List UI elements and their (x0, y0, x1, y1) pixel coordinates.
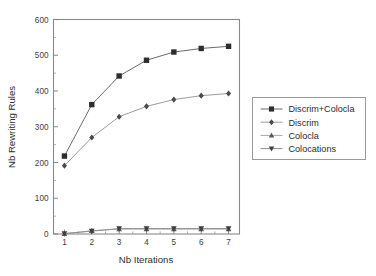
y-tick-label: 200 (35, 159, 49, 168)
legend-entry-label: Colocla (289, 131, 320, 141)
figure-container: 0100200300400500600 1234567 Nb Rewriting… (0, 0, 376, 276)
x-tick-label: 7 (226, 238, 231, 247)
legend-marker-square-icon (269, 106, 274, 111)
series-lines-group (64, 46, 228, 233)
legend-entry-label: Discrim+Colocla (289, 104, 356, 114)
x-tick-label: 5 (172, 238, 177, 247)
chart-svg: 0100200300400500600 1234567 Nb Rewriting… (0, 0, 376, 276)
y-tick-label: 500 (35, 51, 49, 60)
data-point-marker (117, 114, 122, 120)
data-point-marker (89, 102, 94, 107)
y-tick-label: 400 (35, 87, 49, 96)
data-point-marker (171, 96, 176, 102)
legend: Discrim+ColoclaDiscrimColoclaColocations (253, 98, 366, 160)
plot-frame (54, 20, 240, 235)
y-axis-title: Nb Rewriting Rules (6, 86, 17, 168)
x-axis-tick-labels: 1234567 (62, 238, 231, 247)
data-point-marker (226, 90, 231, 96)
data-point-marker (62, 153, 67, 158)
legend-entry-label: Colocations (289, 144, 337, 154)
x-tick-label: 4 (144, 238, 149, 247)
data-point-marker (144, 103, 149, 109)
y-axis-major-ticks (54, 20, 59, 235)
y-tick-label: 600 (35, 16, 49, 25)
figure-caption-partial (0, 262, 376, 276)
x-tick-label: 2 (90, 238, 95, 247)
series-markers-group (62, 44, 232, 237)
y-tick-label: 100 (35, 194, 49, 203)
y-axis-tick-labels: 0100200300400500600 (35, 16, 49, 240)
x-tick-label: 6 (199, 238, 204, 247)
x-tick-label: 1 (62, 238, 67, 247)
x-tick-label: 3 (117, 238, 122, 247)
data-point-marker (144, 58, 149, 63)
data-point-marker (199, 93, 204, 99)
legend-entry-label: Discrim (289, 118, 319, 128)
y-tick-label: 300 (35, 123, 49, 132)
y-tick-label: 0 (44, 230, 49, 239)
data-point-marker (171, 49, 176, 54)
plot-area: 0100200300400500600 1234567 Nb Rewriting… (0, 0, 376, 276)
data-point-marker (226, 44, 231, 49)
data-point-marker (116, 73, 121, 78)
data-point-marker (199, 46, 204, 51)
